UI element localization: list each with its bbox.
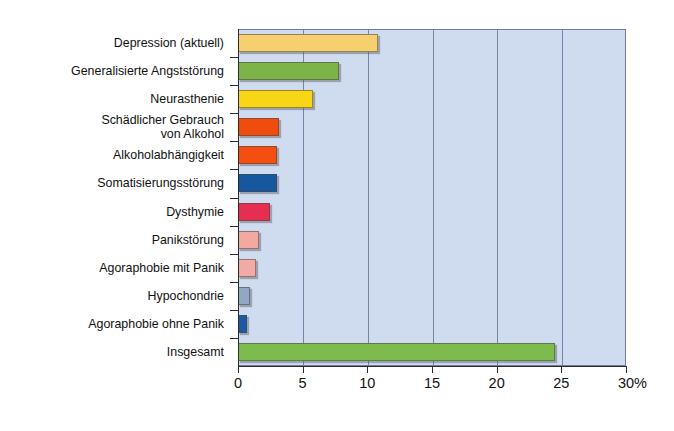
x-axis-tick-label: 0: [234, 375, 242, 391]
x-axis-tick: [367, 366, 368, 373]
category-label: Agoraphobie mit Panik: [99, 261, 224, 275]
bar: [238, 62, 339, 80]
bar: [238, 118, 279, 136]
x-axis-tick-label: 30: [618, 375, 634, 391]
category-labels: Depression (aktuell)Generalisierte Angst…: [0, 29, 232, 366]
x-axis-tick: [497, 366, 498, 373]
category-label: Insgesamt: [167, 345, 224, 359]
y-axis-line: [238, 29, 239, 367]
category-label: Schädlicher Gebrauch von Alkohol: [101, 113, 224, 141]
bar: [238, 146, 277, 164]
x-axis-tick-label: 10: [359, 375, 375, 391]
bar: [238, 287, 250, 305]
category-label: Alkoholabhängigkeit: [113, 148, 224, 162]
x-axis-tick: [626, 366, 627, 373]
bar-chart: Depression (aktuell)Generalisierte Angst…: [0, 0, 674, 431]
x-axis-tick-label: 20: [489, 375, 505, 391]
category-label: Dysthymie: [166, 205, 224, 219]
category-label: Depression (aktuell): [114, 36, 224, 50]
bars-layer: [238, 29, 626, 366]
x-axis-tick-label: 25: [553, 375, 569, 391]
category-label: Panikstörung: [152, 233, 224, 247]
bar: [238, 174, 277, 192]
category-label: Generalisierte Angststörung: [71, 64, 224, 78]
bar: [238, 231, 259, 249]
bar: [238, 343, 555, 361]
x-axis-tick: [303, 366, 304, 373]
category-label: Neurasthenie: [150, 92, 224, 106]
x-axis-tick: [432, 366, 433, 373]
x-axis-tick: [238, 366, 239, 373]
bar: [238, 315, 247, 333]
category-label: Somatisierungsstörung: [97, 176, 224, 190]
x-axis-unit-label: %: [634, 375, 647, 391]
x-axis-tick: [561, 366, 562, 373]
x-axis-tick-label: 5: [299, 375, 307, 391]
category-label: Hypochondrie: [148, 289, 224, 303]
bar: [238, 90, 313, 108]
x-axis-tick-label: 15: [424, 375, 440, 391]
bar: [238, 34, 378, 52]
bar: [238, 203, 270, 221]
category-label: Agoraphobie ohne Panik: [88, 317, 224, 331]
bar: [238, 259, 256, 277]
